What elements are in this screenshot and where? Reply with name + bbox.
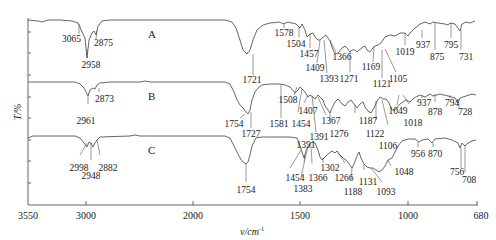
peak-label: 1048 (395, 167, 414, 177)
peak-labels-c: 2998 2948 2882 1754 1454 1383 1391 1366 … (70, 140, 477, 197)
peak-label: 2873 (95, 94, 114, 104)
peak-label: 2882 (99, 163, 118, 173)
peak-label: 1302 (321, 163, 340, 173)
x-tick-2000: 2000 (183, 210, 203, 221)
peak-label: 1409 (306, 63, 325, 73)
x-tick-3550: 3550 (18, 210, 38, 221)
peak-label: 1019 (396, 47, 415, 57)
series-label-a: A (148, 28, 156, 40)
x-tick-1500: 1500 (290, 210, 310, 221)
peak-label: 1093 (377, 187, 396, 197)
x-tick-680: 680 (474, 210, 489, 221)
peak-label: 1754 (237, 185, 256, 195)
peak-label: 1754 (225, 119, 244, 129)
peak-label: 2958 (82, 60, 101, 70)
series-label-c: C (148, 144, 155, 156)
peak-label: 875 (430, 52, 445, 62)
peak-label: 870 (428, 149, 443, 159)
peak-labels-b: 2873 2961 1754 1727 1581 1508 1454 1407 … (77, 94, 473, 151)
peak-label: 1721 (243, 75, 262, 85)
peak-label: 1504 (287, 39, 306, 49)
peak-label: 1367 (322, 116, 341, 126)
peak-label: 1122 (366, 129, 385, 139)
peak-label: 731 (459, 52, 474, 62)
peak-label: 1169 (362, 62, 381, 72)
peak-label: 1393 (320, 74, 339, 84)
peak-label: 1188 (344, 187, 363, 197)
x-tick-labels: 3550 3000 2000 1500 1000 680 (18, 210, 489, 221)
peak-label: 937 (416, 40, 431, 50)
peak-label: 1454 (292, 119, 311, 129)
x-tick-3000: 3000 (76, 210, 96, 221)
peak-label: 1508 (279, 95, 298, 105)
peak-label: 1105 (389, 74, 408, 84)
peak-label: 1366 (333, 52, 352, 62)
peak-label: 1383 (294, 184, 313, 194)
ir-spectrum-chart: 3550 3000 2000 1500 1000 680 v/cm-1 T/% … (0, 0, 496, 240)
series-label-b: B (148, 90, 155, 102)
peak-label: 1727 (242, 129, 261, 139)
peak-label: 1049 (389, 106, 408, 116)
peak-label: 956 (411, 149, 426, 159)
peak-label: 1391 (297, 140, 316, 150)
peak-label: 1266 (335, 173, 354, 183)
x-tick-1000: 1000 (398, 210, 418, 221)
peak-label: 1018 (404, 118, 423, 128)
peak-label: 1457 (300, 49, 319, 59)
peak-label: 1366 (309, 173, 328, 183)
peak-label: 1578 (275, 28, 294, 38)
peak-label: 1454 (286, 173, 305, 183)
peak-label: 1106 (379, 141, 398, 151)
peak-label: 3065 (62, 34, 81, 44)
peak-label: 1271 (340, 74, 359, 84)
peak-label: 878 (428, 107, 443, 117)
peak-label: 728 (458, 107, 473, 117)
peak-label: 2875 (94, 38, 113, 48)
peak-label: 1407 (299, 106, 318, 116)
peak-label: 1276 (330, 129, 349, 139)
peak-label: 708 (462, 175, 477, 185)
peak-label: 795 (444, 40, 459, 50)
peak-label: 1581 (270, 119, 289, 129)
peak-labels-a: 3065 2875 2958 1721 1578 1504 1457 1409 … (62, 28, 473, 89)
peak-label: 2961 (77, 116, 96, 126)
peak-label: 1131 (359, 177, 378, 187)
x-axis-title: v/cm-1 (240, 225, 264, 237)
peak-label: 1187 (359, 116, 378, 126)
y-axis-title: T/% (12, 104, 23, 121)
